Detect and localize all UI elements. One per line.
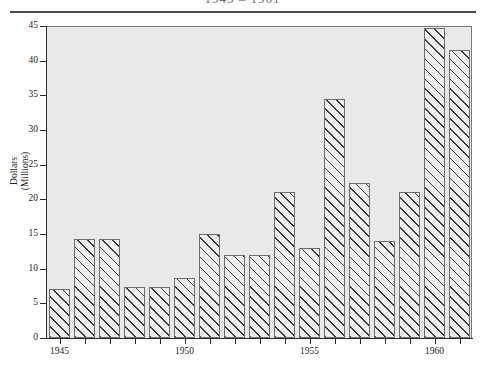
bar-1945	[49, 289, 70, 338]
x-tick-1953	[260, 338, 261, 344]
x-tick-1957	[360, 338, 361, 344]
y-tick-label-10: 10	[4, 263, 38, 273]
y-tick-label-45: 45	[4, 20, 38, 30]
y-tick-label-0: 0	[4, 332, 38, 342]
x-tick-1960	[435, 338, 436, 344]
x-tick-1959	[410, 338, 411, 344]
bar-1957	[349, 183, 370, 338]
bar-1953	[249, 255, 270, 338]
x-tick-1950	[185, 338, 186, 344]
x-tick-1956	[335, 338, 336, 344]
x-tick-1946	[85, 338, 86, 344]
y-tick-30	[40, 130, 47, 131]
x-tick-1958	[385, 338, 386, 344]
y-tick-45	[40, 26, 47, 27]
x-tick-label-1960: 1960	[425, 346, 444, 356]
x-tick-1961	[460, 338, 461, 344]
bar-1947	[99, 239, 120, 338]
x-tick-1954	[285, 338, 286, 344]
chart-title-clipped: 1945 – 1961	[0, 0, 485, 9]
y-tick-label-40: 40	[4, 55, 38, 65]
bar-1955	[299, 248, 320, 338]
x-tick-1951	[210, 338, 211, 344]
y-tick-25	[40, 165, 47, 166]
bar-1946	[74, 239, 95, 338]
x-tick-label-1945: 1945	[50, 346, 69, 356]
bar-1952	[224, 255, 245, 338]
y-tick-15	[40, 234, 47, 235]
y-tick-10	[40, 269, 47, 270]
bar-1960	[424, 28, 445, 338]
x-tick-1949	[160, 338, 161, 344]
y-axis-line	[46, 26, 47, 339]
bar-1956	[324, 99, 345, 338]
x-tick-1945	[60, 338, 61, 344]
chart-title: 1945 – 1961	[0, 0, 485, 7]
bar-1959	[399, 192, 420, 338]
y-tick-5	[40, 303, 47, 304]
bar-1950	[174, 278, 195, 338]
bar-1961	[449, 50, 470, 338]
x-tick-1948	[135, 338, 136, 344]
y-tick-35	[40, 95, 47, 96]
y-tick-0	[40, 338, 47, 339]
x-tick-1955	[310, 338, 311, 344]
bar-1954	[274, 192, 295, 338]
y-tick-label-5: 5	[4, 297, 38, 307]
bar-1958	[374, 241, 395, 338]
y-axis-title: Dollars (Millions)	[9, 131, 31, 211]
x-tick-1952	[235, 338, 236, 344]
x-tick-label-1950: 1950	[175, 346, 194, 356]
bar-1948	[124, 287, 145, 338]
bar-1951	[199, 234, 220, 338]
y-tick-20	[40, 199, 47, 200]
y-tick-label-35: 35	[4, 89, 38, 99]
y-tick-label-15: 15	[4, 228, 38, 238]
y-tick-40	[40, 61, 47, 62]
header-divider	[10, 11, 476, 13]
bar-chart-figure: 1945 – 1961 051015202530354045 194519501…	[0, 0, 485, 365]
x-tick-1947	[110, 338, 111, 344]
x-tick-label-1955: 1955	[300, 346, 319, 356]
bar-1949	[149, 287, 170, 338]
